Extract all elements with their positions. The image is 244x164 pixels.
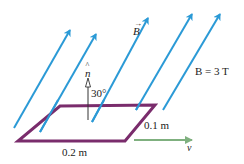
angle-label: 30° <box>91 88 106 99</box>
field-line-4 <box>136 14 192 110</box>
normal-vector-label: ^ n <box>85 68 91 79</box>
loop-length-label: 0.2 m <box>62 147 87 158</box>
field-magnitude-label: B = 3 T <box>195 66 229 77</box>
hat-accent: ^ <box>86 62 90 70</box>
field-line-5 <box>163 14 220 110</box>
loop-width-label: 0.1 m <box>144 120 169 131</box>
vector-arrow-accent: → <box>134 20 142 28</box>
normal-vector-arrow <box>86 78 91 120</box>
field-vector-label: → B <box>133 26 140 37</box>
magnetic-field-lines <box>14 14 220 132</box>
magnetic-flux-diagram: → B ^ n 30° B = 3 T 0.1 m 0.2 m v <box>0 0 244 164</box>
velocity-label: v <box>187 143 191 153</box>
field-line-1 <box>14 30 70 128</box>
diagram-graphics <box>0 0 244 164</box>
conducting-loop <box>18 105 155 141</box>
